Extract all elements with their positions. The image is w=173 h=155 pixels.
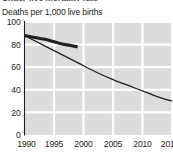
- x-tick-label: 2015: [161, 139, 173, 149]
- y-tick-label: 20: [11, 108, 21, 118]
- line-chart-svg: 020406080100199019952000200520102015: [0, 0, 173, 155]
- x-tick-label: 1995: [45, 139, 64, 149]
- y-tick-label: 100: [7, 17, 21, 27]
- x-tick-label: 2000: [74, 139, 93, 149]
- plot-area: 020406080100199019952000200520102015: [0, 0, 173, 155]
- y-tick-label: 80: [11, 40, 21, 50]
- y-tick-label: 40: [11, 85, 21, 95]
- chart-container: Under-five mortality rate Deaths per 1,0…: [0, 0, 173, 155]
- x-tick-label: 1990: [17, 139, 36, 149]
- y-tick-label: 60: [11, 62, 21, 72]
- x-tick-label: 2010: [133, 139, 152, 149]
- x-tick-label: 2005: [104, 139, 123, 149]
